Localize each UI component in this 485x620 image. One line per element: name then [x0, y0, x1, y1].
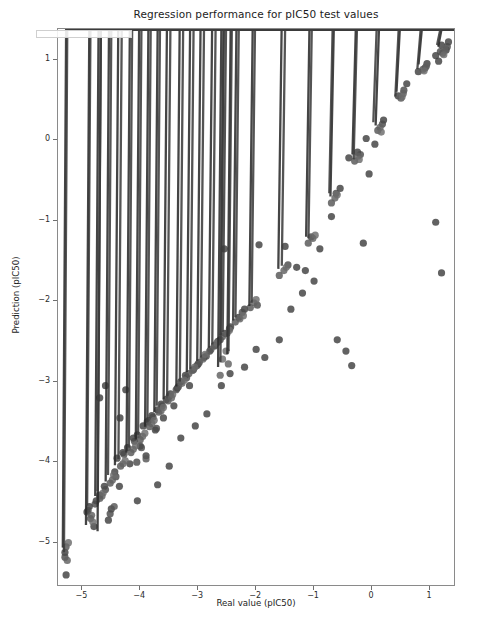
y-axis-label: Prediction (pIC50)	[11, 235, 21, 355]
y-tick-mark	[53, 381, 57, 382]
x-tick-label: −3	[185, 591, 209, 600]
x-tick-label: −2	[243, 591, 267, 600]
x-tick-mark	[255, 586, 256, 590]
x-tick-mark	[313, 586, 314, 590]
y-tick-mark	[53, 542, 57, 543]
x-tick-label: 1	[417, 591, 441, 600]
plot-area	[57, 28, 455, 586]
y-tick-label: −1	[24, 215, 50, 224]
matplotlib-figure: Regression performance for pIC50 test va…	[0, 0, 485, 620]
y-tick-mark	[53, 220, 57, 221]
x-tick-mark	[81, 586, 82, 590]
y-tick-mark	[53, 300, 57, 301]
chart-legend	[36, 30, 132, 38]
y-tick-label: −2	[24, 295, 50, 304]
series-group	[65, 51, 448, 546]
x-tick-label: −1	[301, 591, 325, 600]
y-tick-label: 0	[24, 134, 50, 143]
x-tick-mark	[197, 586, 198, 590]
x-tick-label: −5	[69, 591, 93, 600]
y-tick-mark	[53, 139, 57, 140]
y-tick-mark	[53, 461, 57, 462]
y-tick-mark	[53, 59, 57, 60]
scatter-points	[58, 29, 455, 586]
x-tick-mark	[139, 586, 140, 590]
series-group	[64, 29, 455, 555]
x-tick-label: −4	[127, 591, 151, 600]
page-title: Regression performance for pIC50 test va…	[57, 8, 455, 20]
y-tick-label: 1	[24, 54, 50, 63]
x-tick-mark	[371, 586, 372, 590]
y-tick-label: −3	[24, 376, 50, 385]
x-tick-mark	[429, 586, 430, 590]
y-tick-label: −4	[24, 456, 50, 465]
x-tick-label: 0	[359, 591, 383, 600]
y-tick-label: −5	[24, 537, 50, 546]
